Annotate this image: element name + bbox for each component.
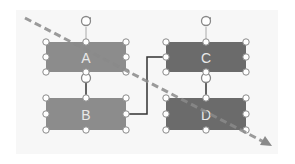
shape-b-label: B [81,107,90,123]
shape-a-label: A [81,50,91,66]
resize-handle[interactable] [123,127,129,133]
resize-handle[interactable] [43,54,49,60]
resize-handle[interactable] [163,54,169,60]
resize-handle[interactable] [243,111,249,117]
resize-handle[interactable] [203,127,209,133]
shape-a[interactable]: A [46,42,126,72]
shape-b[interactable]: B [46,98,126,130]
resize-handle[interactable] [163,69,169,75]
diagram-canvas: A B C D [0,0,295,164]
resize-handle[interactable] [83,95,89,101]
resize-handle[interactable] [123,95,129,101]
resize-handle[interactable] [243,69,249,75]
resize-handle[interactable] [123,111,129,117]
shape-c[interactable]: C [166,42,246,72]
resize-handle[interactable] [203,39,209,45]
resize-handle[interactable] [43,111,49,117]
resize-handle[interactable] [83,127,89,133]
resize-handle[interactable] [203,95,209,101]
resize-handle[interactable] [163,111,169,117]
resize-handle[interactable] [243,54,249,60]
resize-handle[interactable] [123,39,129,45]
resize-handle[interactable] [203,69,209,75]
resize-handle[interactable] [43,69,49,75]
resize-handle[interactable] [43,39,49,45]
resize-handle[interactable] [163,95,169,101]
resize-handle[interactable] [243,39,249,45]
resize-handle[interactable] [83,69,89,75]
resize-handle[interactable] [163,127,169,133]
resize-handle[interactable] [163,39,169,45]
resize-handle[interactable] [43,127,49,133]
shape-c-label: C [201,50,211,66]
resize-handle[interactable] [243,95,249,101]
resize-handle[interactable] [43,95,49,101]
resize-handle[interactable] [83,39,89,45]
resize-handle[interactable] [123,54,129,60]
